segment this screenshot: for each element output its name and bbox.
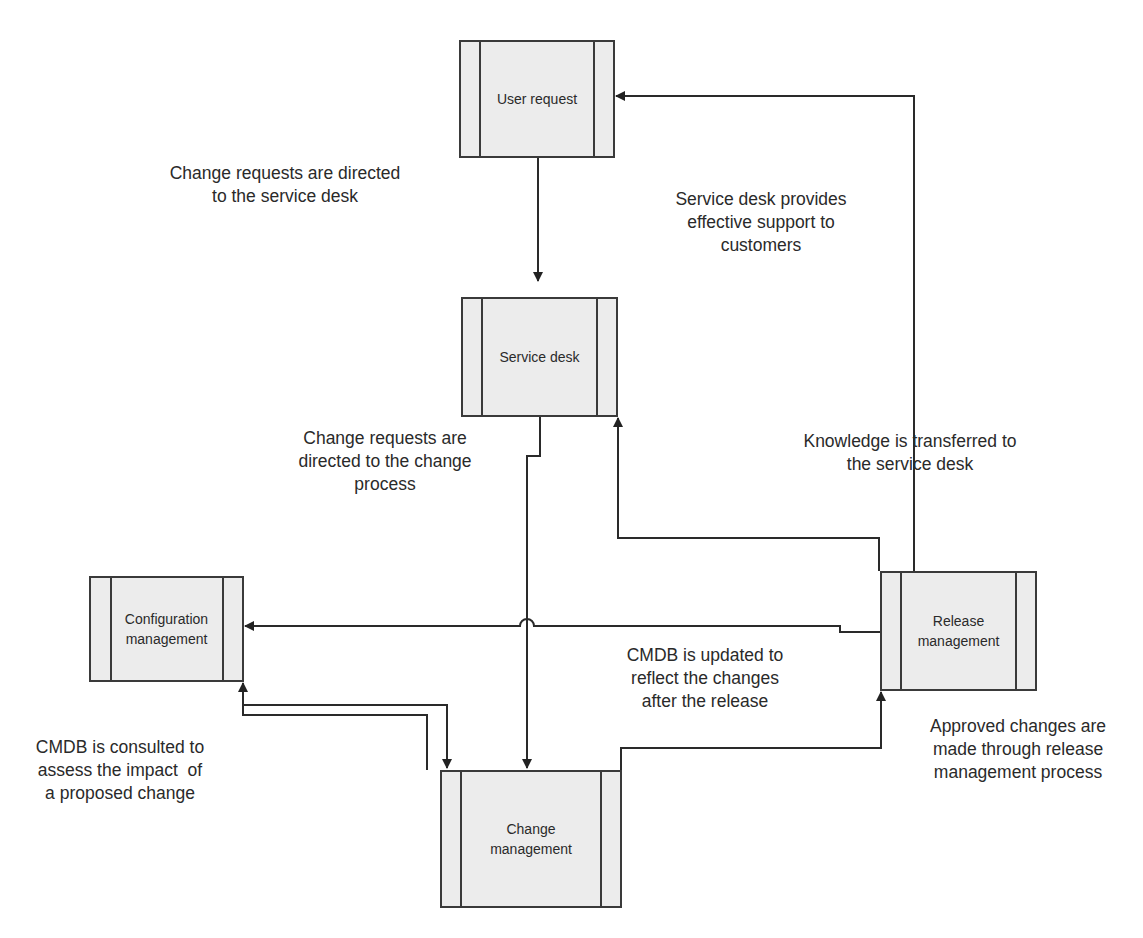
node-user-request: User request [459, 40, 615, 158]
node-bar-left [481, 299, 483, 415]
node-bar-right [596, 299, 598, 415]
annotation-knowledge-transfer: Knowledge is transferred to the service … [780, 430, 1040, 476]
itil-process-diagram: User request Service desk Configuration … [0, 0, 1143, 938]
node-label: Service desk [495, 347, 583, 367]
annotation-line: directed to the change [270, 450, 500, 473]
node-bar-right [600, 772, 602, 906]
annotation-to-service-desk: Change requests are directed to the serv… [130, 162, 440, 208]
node-label: Configuration management [110, 609, 223, 649]
annotation-line: Change requests are [270, 427, 500, 450]
annotation-line: Approved changes are [893, 715, 1143, 738]
node-release-management: Release management [880, 571, 1037, 691]
annotation-line: reflect the changes [590, 667, 820, 690]
annotation-line: to the service desk [130, 185, 440, 208]
node-label: Change management [472, 819, 590, 859]
edge-release-to-config [245, 619, 880, 632]
node-label: Release management [902, 611, 1015, 651]
edge-change-to-config [243, 683, 427, 770]
annotation-line: the service desk [780, 453, 1040, 476]
annotation-line: made through release [893, 738, 1143, 761]
annotation-line: Service desk provides [636, 188, 886, 211]
edge-release-to-user [616, 96, 914, 571]
annotation-line: customers [636, 234, 886, 257]
node-configuration-management: Configuration management [89, 576, 244, 682]
node-bar-right [593, 42, 595, 156]
annotation-line: process [270, 473, 500, 496]
node-label: User request [493, 89, 581, 109]
annotation-line: CMDB is consulted to [5, 736, 235, 759]
node-change-management: Change management [440, 770, 622, 908]
annotation-line: effective support to [636, 211, 886, 234]
annotation-support-customers: Service desk provides effective support … [636, 188, 886, 257]
annotation-approved-changes: Approved changes are made through releas… [893, 715, 1143, 784]
annotation-to-change-process: Change requests are directed to the chan… [270, 427, 500, 496]
node-bar-left [479, 42, 481, 156]
annotation-line: Change requests are directed [130, 162, 440, 185]
edge-servicedesk-to-change [527, 416, 540, 768]
annotation-line: management process [893, 761, 1143, 784]
node-bar-left [460, 772, 462, 906]
annotation-line: after the release [590, 690, 820, 713]
annotation-cmdb-updated: CMDB is updated to reflect the changes a… [590, 644, 820, 713]
annotation-line: CMDB is updated to [590, 644, 820, 667]
node-service-desk: Service desk [461, 297, 618, 417]
annotation-cmdb-consulted: CMDB is consulted to assess the impact o… [5, 736, 235, 805]
annotation-line: a proposed change [5, 782, 235, 805]
annotation-line: assess the impact of [5, 759, 235, 782]
node-bar-right [1015, 573, 1017, 689]
annotation-line: Knowledge is transferred to [780, 430, 1040, 453]
